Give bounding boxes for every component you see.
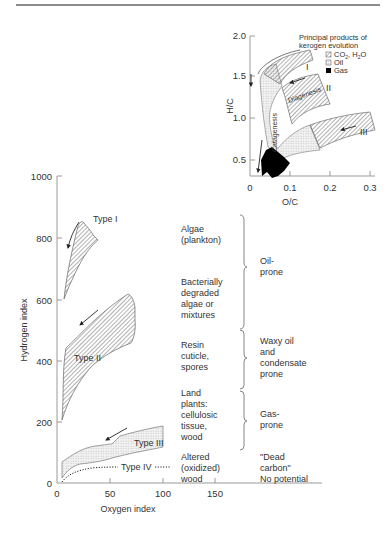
group-oil-prone: Oil- prone: [260, 256, 283, 277]
legend-hatch-swatch: [326, 52, 331, 57]
source-algae: Algae (plankton): [181, 224, 221, 245]
braces: [240, 215, 247, 450]
type1-band: [64, 222, 98, 299]
label-type4: Type IV: [121, 462, 152, 472]
main-xtick-150: 150: [207, 488, 223, 499]
potential-groups: Oil- prone Waxy oil and condensate prone…: [260, 256, 309, 484]
source-altered-wood: Altered (oxidized) wood: [180, 452, 223, 484]
inset-xlabel: O/C: [282, 197, 299, 207]
legend-gas-swatch: [326, 68, 331, 73]
inset-label-type1: I: [306, 62, 309, 72]
label-type1: Type I: [93, 214, 118, 224]
main-ytick-0: 0: [47, 478, 52, 489]
inset-label-type3: III: [360, 127, 368, 137]
inset-ytick-2.0: 2.0: [233, 30, 246, 41]
main-ytick-800: 800: [36, 233, 52, 244]
main-xtick-50: 50: [105, 488, 116, 499]
inset-chart: 2.0 1.5 1.0 0.5 0 0.1 0.2 0.3 O/C H/C I …: [225, 30, 377, 207]
inset-catagenesis-label: Catagenesis: [271, 113, 279, 152]
legend-oil-swatch: [326, 60, 331, 65]
main-ytick-600: 600: [36, 295, 52, 306]
source-resin: Resin cuticle, spores: [181, 340, 212, 372]
brace-waxy-oil: [240, 330, 247, 389]
brace-oil-prone: [240, 215, 247, 329]
label-type3: Type III: [134, 438, 164, 448]
group-waxy-oil: Waxy oil and condensate prone: [260, 336, 309, 379]
source-descriptions: Algae (plankton) Bacterially degraded al…: [180, 224, 225, 484]
inset-xtick-0: 0: [247, 182, 252, 193]
group-gas-prone: Gas- prone: [260, 409, 283, 430]
legend-title-line2: kerogen evolution: [299, 41, 358, 50]
source-bacterial: Bacterially degraded algae or mixtures: [181, 277, 225, 320]
inset-xtick-0.1: 0.1: [283, 182, 296, 193]
main-xtick-0: 0: [54, 488, 59, 499]
inset-xtick-0.3: 0.3: [363, 182, 376, 193]
inset-ytick-1.5: 1.5: [233, 70, 246, 81]
main-ytick-1000: 1000: [31, 171, 52, 182]
main-xlabel: Oxygen index: [100, 504, 156, 514]
kerogen-diagram: 2.0 1.5 1.0 0.5 0 0.1 0.2 0.3 O/C H/C I …: [0, 0, 384, 536]
inset-label-type2: II: [326, 83, 331, 93]
brace-gas-prone: [240, 391, 247, 450]
inset-xtick-0.2: 0.2: [323, 182, 336, 193]
label-type2: Type II: [74, 353, 101, 363]
main-ytick-400: 400: [36, 356, 52, 367]
main-xtick-100: 100: [155, 488, 171, 499]
group-no-potential: "Dead carbon" No potential: [260, 452, 308, 484]
inset-ytick-0.5: 0.5: [233, 154, 246, 165]
main-ylabel: Hydrogen index: [19, 298, 29, 362]
inset-ylabel: H/C: [225, 98, 235, 114]
main-ytick-200: 200: [36, 417, 52, 428]
source-land-plants: Land plants: cellulosic tissue, wood: [180, 388, 220, 442]
legend-item-gas: Gas: [334, 66, 348, 75]
